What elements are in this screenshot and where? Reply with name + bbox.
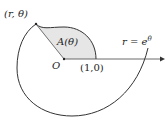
curve-label-base: r = e xyxy=(122,36,147,47)
curve-label-exponent: θ xyxy=(147,35,151,43)
point-label: (r, θ) xyxy=(4,9,28,19)
x-axis-arrow-icon xyxy=(160,57,165,62)
area-label: A(θ) xyxy=(57,37,78,47)
curve-point xyxy=(35,23,37,25)
unit-point-label: (1,0) xyxy=(80,63,104,73)
origin-point xyxy=(63,58,65,60)
origin-label: O xyxy=(52,61,60,71)
spiral-area-diagram: (r, θ) A(θ) O (1,0) r = eθ xyxy=(0,0,166,128)
curve-label: r = eθ xyxy=(122,36,152,47)
